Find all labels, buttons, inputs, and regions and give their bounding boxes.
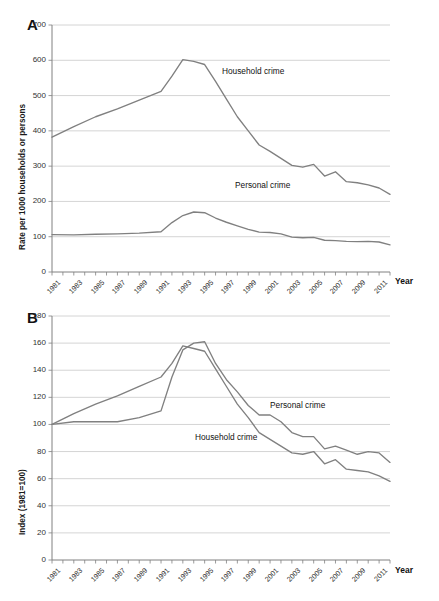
y-tick-label: 700 [10, 20, 46, 29]
series-label-household-b: Household crime [195, 432, 257, 442]
chart-plot-a [0, 0, 439, 300]
y-tick-label: 140 [10, 365, 46, 374]
y-tick-label: 400 [10, 126, 46, 135]
series-label-personal-a: Personal crime [235, 180, 290, 190]
y-tick-label: 0 [10, 555, 46, 564]
y-tick-label: 120 [10, 392, 46, 401]
panel-b: B Index (1981=100) Year Personal crime H… [0, 300, 439, 601]
y-tick-label: 60 [10, 474, 46, 483]
series-label-personal-b: Personal crime [270, 400, 325, 410]
series-label-household-a: Household crime [222, 66, 284, 76]
y-tick-label: 0 [10, 267, 46, 276]
y-tick-label: 20 [10, 528, 46, 537]
y-tick-label: 600 [10, 55, 46, 64]
y-tick-label: 80 [10, 447, 46, 456]
y-tick-label: 180 [10, 311, 46, 320]
y-tick-label: 100 [10, 232, 46, 241]
panel-a: A Rate per 1000 households or persons Ye… [0, 0, 439, 300]
y-tick-label: 100 [10, 419, 46, 428]
y-tick-label: 40 [10, 501, 46, 510]
chart-plot-b [0, 300, 439, 601]
y-tick-label: 300 [10, 161, 46, 170]
y-tick-label: 160 [10, 338, 46, 347]
y-tick-label: 500 [10, 91, 46, 100]
y-tick-label: 200 [10, 196, 46, 205]
